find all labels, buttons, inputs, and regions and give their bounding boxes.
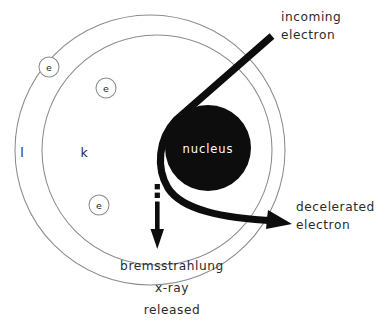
k-shell-label: k [80, 145, 88, 160]
decelerated-electron-label-line2: electron [296, 218, 350, 232]
xray-dash-segment-1 [155, 184, 160, 189]
decelerated-electron-arrowhead [266, 210, 292, 229]
l-shell-label: l [20, 145, 23, 160]
nucleus-label: nucleus [183, 142, 234, 156]
incoming-electron-label-line2: electron [281, 28, 335, 42]
xray-arrowhead [151, 229, 165, 249]
electron-l-shell-label: e [46, 62, 52, 73]
incoming-electron-label-line1: incoming [281, 10, 341, 24]
xray-label-line2: x-ray [155, 281, 189, 295]
bremsstrahlung-diagram: l k nucleus e e e incoming electron dece… [0, 0, 385, 328]
electron-k-shell-lower-label: e [96, 200, 102, 211]
diagram-canvas: l k nucleus e e e incoming electron dece… [0, 0, 385, 328]
xray-label-line3: released [144, 303, 201, 317]
electron-k-shell-upper-label: e [103, 83, 109, 94]
decelerated-electron-label-line1: decelerated [296, 200, 375, 214]
xray-dash-segment-2 [155, 193, 160, 198]
xray-label-line1: bremsstrahlung [120, 259, 224, 273]
